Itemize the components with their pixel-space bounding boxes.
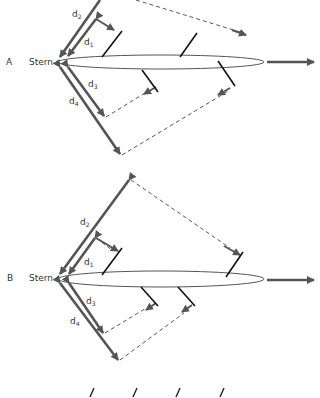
tick-mark-1	[90, 388, 94, 397]
fin-arrow-d1-a	[96, 19, 114, 30]
diagram-canvas: A Stern d2 d1 d3 d4 B	[0, 0, 320, 398]
hull-ellipse-b	[58, 271, 264, 287]
panel-b: B Stern d2 d1 d3 d4	[7, 180, 314, 360]
dashed-projection-d2-a	[136, 0, 240, 32]
distance-arrow-d2-a	[60, 0, 100, 57]
dashed-projection-d3-a	[106, 90, 150, 117]
fin-arrow-d4-a	[218, 88, 230, 95]
tick-mark-4	[220, 388, 224, 397]
fin-4-b	[178, 287, 195, 306]
fin-arrow-d3-b	[146, 303, 156, 310]
distance-arrow-d4-b	[60, 283, 118, 360]
panel-label-b: B	[7, 273, 13, 283]
distance-arrow-d2-b	[60, 180, 129, 274]
stern-label-b: Stern	[29, 273, 53, 283]
label-d3-b: d3	[86, 296, 96, 307]
panel-a: A Stern d2 d1 d3 d4	[6, 0, 314, 155]
fin-2-a	[180, 33, 197, 57]
fin-3-a	[142, 70, 158, 92]
fin-arrow-d1-b	[96, 238, 118, 251]
bottom-tick-marks	[90, 388, 224, 397]
label-d2-b: d2	[80, 217, 90, 228]
label-d1-a: d1	[84, 37, 94, 48]
label-d3-a: d3	[88, 79, 98, 90]
label-d4-a: d4	[69, 96, 79, 107]
fin-1-b	[102, 248, 122, 275]
fin-4-a	[218, 61, 235, 86]
label-d1-b: d1	[84, 257, 94, 268]
tick-mark-2	[133, 388, 137, 397]
tick-mark-3	[176, 388, 180, 397]
panel-label-a: A	[6, 57, 13, 67]
fin-3-b	[141, 287, 158, 306]
fin-arrow-d2-b	[224, 246, 240, 255]
dashed-projection-d4-a	[122, 90, 230, 155]
label-d4-b: d4	[70, 316, 80, 327]
hull-ellipse-a	[58, 55, 264, 69]
distance-arrow-d3-a	[68, 67, 104, 116]
fin-1-a	[102, 31, 122, 57]
dashed-projection-d2-b	[131, 180, 230, 248]
dashed-projection-d4-b	[120, 313, 184, 360]
fin-arrow-d4-b	[182, 305, 192, 312]
label-d2-a: d2	[72, 9, 82, 20]
fin-arrow-d2-a	[232, 30, 246, 35]
stern-label-a: Stern	[29, 57, 53, 67]
dashed-projection-d3-b	[105, 307, 148, 333]
